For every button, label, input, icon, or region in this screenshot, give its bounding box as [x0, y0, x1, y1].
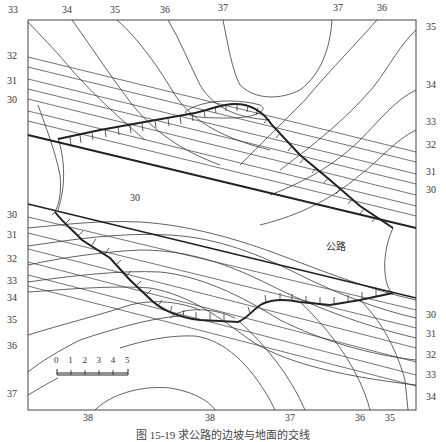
elevation-label: 38	[83, 413, 93, 423]
elevation-label: 30	[426, 185, 436, 195]
scale-bar	[57, 369, 128, 375]
scale-tick-label: 4	[111, 355, 125, 365]
elevation-label: 38	[205, 413, 215, 423]
elevation-label: 31	[426, 329, 436, 339]
road-upper-edge	[28, 135, 416, 228]
elevation-label: 33	[8, 5, 18, 15]
elevation-label: 34	[426, 392, 436, 402]
scale-tick-label: 0	[54, 355, 68, 365]
elevation-label: 31	[7, 76, 17, 86]
elevation-label: 36	[377, 3, 387, 13]
scale-tick-label: 2	[82, 355, 96, 365]
elevation-label: 31	[426, 167, 436, 177]
elevation-label: 32	[426, 140, 436, 150]
ground-contours	[28, 20, 416, 410]
elevation-label: 33	[426, 370, 436, 380]
elevation-label: 37	[285, 413, 295, 423]
elevation-label: 35	[110, 5, 120, 15]
lower-intersection-line	[55, 212, 393, 322]
map-frame	[28, 20, 416, 410]
elevation-label: 34	[426, 80, 436, 90]
elevation-label: 30	[7, 210, 17, 220]
scale-tick-label: 5	[125, 355, 139, 365]
elevation-label: 31	[7, 230, 17, 240]
elevation-label: 37	[7, 389, 17, 399]
elevation-label: 34	[7, 293, 17, 303]
elevation-label: 32	[7, 254, 17, 264]
elevation-label: 37	[333, 3, 343, 13]
elevation-label: 30	[426, 310, 436, 320]
elevation-label: 35	[426, 22, 436, 32]
elevation-label: 36	[355, 413, 365, 423]
scale-tick-label: 1	[68, 355, 82, 365]
figure-caption: 图 15-19 求公路的边坡与地面的交线	[0, 426, 446, 442]
elevation-label: 32	[426, 350, 436, 360]
elevation-label: 33	[426, 117, 436, 127]
elevation-label: 36	[160, 5, 170, 15]
scale-bar-numbers: 012345	[54, 355, 139, 365]
road-lower-edge	[28, 204, 416, 298]
elevation-label: 35	[7, 315, 17, 325]
road-elevation-label: 30	[130, 192, 140, 203]
road-label: 公路	[326, 238, 346, 253]
elevation-label: 37	[218, 3, 228, 13]
elevation-label: 30	[7, 95, 17, 105]
elevation-label: 32	[7, 51, 17, 61]
elevation-label: 34	[62, 5, 72, 15]
elevation-label: 35	[385, 413, 395, 423]
elevation-label: 36	[7, 341, 17, 351]
elevation-label: 33	[7, 276, 17, 286]
scale-tick-label: 3	[97, 355, 111, 365]
